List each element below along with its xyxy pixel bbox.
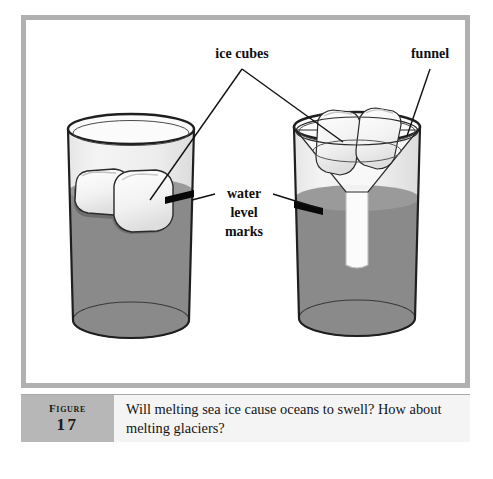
label-ice-cubes: ice cubes	[215, 46, 269, 61]
figure-root: ice cubes funnel water level marks Figur…	[0, 0, 493, 479]
label-water-level-line3: marks	[225, 224, 264, 239]
figure-caption-text: Will melting sea ice cause oceans to swe…	[126, 400, 460, 437]
leader-funnel	[407, 69, 430, 136]
science-illustration: ice cubes funnel water level marks	[26, 20, 475, 393]
figure-label-word: Figure	[49, 402, 86, 414]
left-glass-rim-outer	[68, 114, 194, 144]
figure-caption-band: Figure 17 Will melting sea ice cause oce…	[21, 394, 470, 442]
figure-caption-panel: Will melting sea ice cause oceans to swe…	[114, 395, 470, 442]
leader-water-level-left	[192, 194, 215, 200]
illustration-panel: ice cubes funnel water level marks	[21, 15, 470, 388]
label-water-level-line2: level	[230, 205, 257, 220]
figure-number-block: Figure 17	[21, 395, 114, 442]
label-funnel: funnel	[411, 46, 449, 61]
figure-label-number: 17	[57, 415, 79, 435]
leader-ice-cubes-right	[242, 69, 343, 142]
right-glass-group	[282, 108, 442, 358]
label-water-level-line1: water	[227, 186, 261, 201]
funnel-stem	[346, 190, 368, 268]
left-glass-group	[56, 114, 216, 351]
